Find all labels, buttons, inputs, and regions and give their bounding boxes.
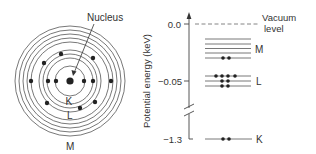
level-label-l: L (256, 76, 262, 87)
electron (45, 101, 49, 105)
shell-label-l: L (67, 110, 73, 121)
level-label-k: K (256, 134, 263, 145)
electron (91, 56, 95, 60)
electron (82, 79, 86, 83)
electron (93, 100, 97, 104)
electron (91, 79, 95, 83)
electron (42, 61, 46, 65)
electron (109, 79, 113, 83)
atom-and-energy-diagram: Nucleus K L M Potential energy (keV) 0.0… (0, 0, 316, 154)
tick-label-2: −1.3 (163, 134, 182, 145)
nucleus-label: Nucleus (87, 12, 123, 23)
vacuum-label-line1: Vacuum (262, 12, 296, 23)
nucleus (66, 77, 73, 84)
shell-label-k: K (66, 96, 73, 107)
electron (54, 79, 58, 83)
electron (46, 79, 50, 83)
electron (29, 79, 33, 83)
tick-label-0: 0.0 (168, 19, 181, 30)
y-axis-label: Potential energy (keV) (141, 34, 152, 128)
vacuum-label-line2: level (264, 23, 284, 34)
tick-label-1: −0.05 (158, 76, 182, 87)
electron (78, 106, 82, 110)
axis-arrow-icon (187, 12, 192, 19)
shell-label-m: M (66, 141, 74, 152)
m-levels (205, 39, 251, 58)
electron (59, 52, 63, 56)
y-axis (184, 17, 194, 139)
level-label-m: M (255, 44, 263, 55)
